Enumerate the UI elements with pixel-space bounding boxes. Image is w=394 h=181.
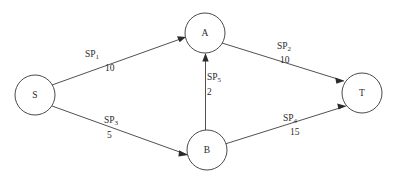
edge-weight-sp3: 5: [107, 131, 112, 141]
node-group: S A B T: [15, 13, 382, 170]
edge-line-s-a: [52, 37, 186, 85]
edge-weight-sp5: 2: [207, 88, 212, 98]
edge-line-b-t: [225, 106, 346, 144]
edge-weight-sp2: 10: [280, 56, 290, 66]
node-b-label: B: [204, 145, 210, 155]
edge-weight-sp1: 10: [105, 64, 115, 74]
node-a-label: A: [202, 28, 209, 38]
edge-weight-sp4: 15: [290, 128, 300, 138]
node-b[interactable]: B: [187, 130, 227, 170]
node-a[interactable]: A: [185, 13, 225, 53]
arrow-head-into-a-from-s: [177, 36, 186, 42]
node-s[interactable]: S: [15, 75, 55, 115]
node-t[interactable]: T: [342, 73, 382, 113]
graph-canvas: S A B T: [0, 0, 394, 181]
edge-b-to-t[interactable]: [225, 103, 346, 144]
edge-label-sp5: SP5: [207, 73, 221, 83]
edge-s-to-a[interactable]: [52, 36, 186, 85]
edge-label-sp1: SP1: [85, 50, 99, 60]
edge-s-to-b[interactable]: [52, 106, 188, 156]
edge-line-s-b: [52, 106, 188, 155]
edge-label-sp3: SP3: [104, 116, 118, 126]
arrow-head-into-t-from-a: [335, 78, 344, 84]
arrow-head-into-t-from-b: [337, 103, 346, 109]
node-t-label: T: [359, 88, 365, 98]
arrow-head-into-a-from-b: [202, 53, 208, 62]
edge-label-sp2: SP2: [277, 42, 291, 52]
node-s-label: S: [32, 90, 37, 100]
network-diagram: S A B T SP1 10 SP2 10 SP3 5 SP4 15 SP5 2: [0, 0, 394, 181]
edge-label-sp4: SP4: [283, 114, 297, 124]
